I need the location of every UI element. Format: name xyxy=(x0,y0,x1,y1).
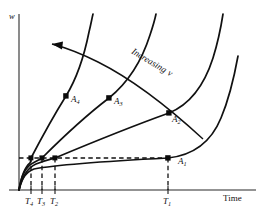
point-label-a4: A4 xyxy=(70,94,80,105)
point-label-a1: A1 xyxy=(177,156,187,167)
figure-canvas: w Time T4 T3 T2 T1 xyxy=(0,0,259,217)
marker-a1 xyxy=(165,155,170,160)
marker-a3 xyxy=(106,95,111,100)
tick-label-t3: T3 xyxy=(37,196,45,207)
x-axis-label: Time xyxy=(223,193,242,203)
tick-label-t1: T1 xyxy=(163,196,171,207)
curves-group xyxy=(19,14,238,190)
x-tick-labels: T4 T3 T2 T1 xyxy=(25,196,171,207)
increasing-nu-label: Increasingν xyxy=(129,46,175,79)
y-axis-label: w xyxy=(9,11,15,21)
point-label-a2: A2 xyxy=(171,114,181,125)
tick-label-t2: T2 xyxy=(50,196,58,207)
point-label-a3: A3 xyxy=(113,96,123,107)
increasing-nu-label-group: Increasingν xyxy=(129,46,175,79)
marker-a2 xyxy=(166,110,171,115)
marker-threshold-t3 xyxy=(39,155,44,160)
creep-curve-figure: w Time T4 T3 T2 T1 xyxy=(0,0,259,217)
arrowhead-icon xyxy=(52,42,63,50)
marker-a4 xyxy=(63,93,68,98)
axes-group xyxy=(9,14,256,190)
marker-threshold-t2 xyxy=(52,155,57,160)
tick-label-t4: T4 xyxy=(25,196,33,207)
marker-threshold-t4 xyxy=(28,155,33,160)
